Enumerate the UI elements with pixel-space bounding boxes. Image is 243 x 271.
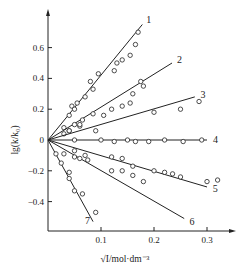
data-point (120, 58, 124, 62)
data-point (120, 156, 124, 160)
data-point (162, 138, 166, 142)
data-point (94, 129, 98, 133)
y-tick-label: 0.6 (33, 43, 45, 53)
data-point (215, 178, 219, 182)
data-point (141, 179, 145, 183)
data-point (147, 139, 151, 143)
data-point (72, 155, 76, 159)
data-point (109, 155, 113, 159)
data-point (162, 170, 166, 174)
data-point (112, 139, 116, 143)
data-point (125, 138, 129, 142)
data-point (178, 175, 182, 179)
data-point (83, 95, 87, 99)
data-point (170, 172, 174, 176)
data-point (94, 210, 98, 214)
series-1: 1 (48, 14, 151, 140)
series-label-3: 3 (201, 89, 206, 100)
y-axis-title: lg(k/k₀) (10, 125, 21, 154)
data-point (72, 149, 76, 153)
y-tick-label: 0.4 (33, 73, 45, 83)
series-label-5: 5 (213, 183, 218, 194)
series-label-7: 7 (85, 215, 90, 226)
data-point (83, 153, 87, 157)
data-point (181, 139, 185, 143)
data-point (128, 53, 132, 57)
series-6: 6 (48, 140, 194, 227)
chart: 0.60.40.20−0.2−0.4 0.10.20.3 1234567 lg(… (0, 0, 243, 271)
data-point (67, 170, 71, 174)
data-point (59, 161, 63, 165)
x-tick-label: 0.2 (148, 235, 159, 245)
series-label-2: 2 (177, 54, 182, 65)
series-label-1: 1 (146, 14, 151, 25)
data-point (91, 87, 95, 91)
series-4: 4 (48, 134, 218, 145)
y-tick-label: −0.2 (28, 166, 44, 176)
data-point (115, 61, 119, 65)
data-point (133, 139, 137, 143)
series-5: 5 (48, 140, 220, 194)
data-point (101, 113, 105, 117)
data-point (131, 173, 135, 177)
data-point (91, 112, 95, 116)
x-axis-title: √I/mol·dm⁻³ (101, 254, 150, 264)
data-point (72, 138, 76, 142)
data-point (112, 69, 116, 73)
data-point (54, 152, 58, 156)
data-point (200, 138, 204, 142)
data-point (67, 129, 71, 133)
series-2: 2 (48, 54, 182, 140)
series-label-4: 4 (213, 134, 218, 145)
x-tick-label: 0.3 (201, 235, 213, 245)
data-point (96, 72, 100, 76)
data-point (109, 107, 113, 111)
data-point (80, 192, 84, 196)
series-label-6: 6 (189, 216, 194, 227)
data-point (78, 156, 82, 160)
data-point (205, 179, 209, 183)
y-tick-label: 0.2 (33, 104, 44, 114)
y-tick-label: 0 (40, 135, 45, 145)
data-point (141, 84, 145, 88)
fit-line-2 (48, 63, 172, 140)
data-point (72, 189, 76, 193)
x-axis-arrow (229, 229, 236, 233)
axes (46, 9, 236, 233)
data-point (80, 118, 84, 122)
data-point (139, 79, 143, 83)
fit-line-1 (48, 25, 142, 141)
data-point (178, 107, 182, 111)
data-point (120, 104, 124, 108)
data-point (86, 158, 90, 162)
data-point (109, 169, 113, 173)
data-point (131, 164, 135, 168)
data-point (67, 176, 71, 180)
fit-line-5 (48, 140, 207, 187)
y-tick-label: −0.4 (28, 197, 45, 207)
data-point (131, 92, 135, 96)
data-point (62, 152, 66, 156)
data-point (88, 79, 92, 83)
data-point (67, 113, 71, 117)
data-point (72, 122, 76, 126)
fit-line-3 (48, 97, 195, 140)
data-point (75, 101, 79, 105)
data-point (128, 101, 132, 105)
data-point (99, 138, 103, 142)
data-point (136, 30, 140, 34)
data-point (152, 110, 156, 114)
data-point (78, 122, 82, 126)
x-tick-label: 0.1 (95, 235, 106, 245)
data-point (152, 169, 156, 173)
data-point (120, 169, 124, 173)
y-axis-arrow (46, 9, 50, 16)
data-point (133, 42, 137, 46)
data-point (72, 107, 76, 111)
